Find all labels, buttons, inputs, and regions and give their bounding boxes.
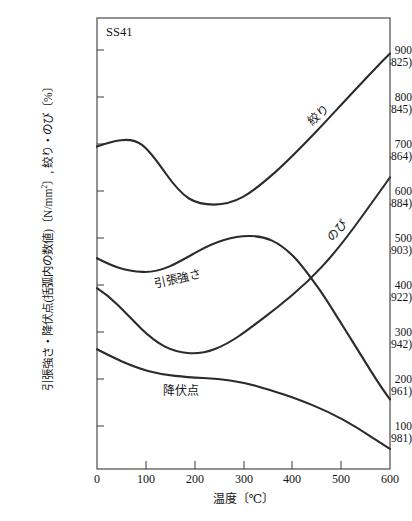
x-axis-title: 温度〔℃〕: [97, 489, 390, 507]
specimen-label: SS41: [106, 25, 132, 40]
chart-figure: 引張強さ・降伏点(括弧内の数値)〔N/mm2〕, 絞り・のび〔%〕 900 (8…: [0, 0, 412, 521]
x-tick-500: 500: [321, 472, 361, 487]
x-tick-600: 600: [370, 472, 410, 487]
x-tick-100: 100: [126, 472, 166, 487]
x-tick-0: 0: [77, 472, 117, 487]
series-label-yield: 降伏点: [163, 381, 199, 399]
plot-frame: [97, 18, 390, 469]
x-tick-200: 200: [175, 472, 215, 487]
x-tick-400: 400: [272, 472, 312, 487]
plot-canvas: [0, 0, 412, 521]
x-tick-300: 300: [224, 472, 264, 487]
